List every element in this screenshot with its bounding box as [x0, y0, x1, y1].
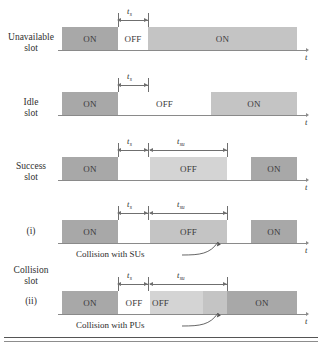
leader-line-collision-sus [180, 240, 230, 258]
time-axis-label-row1: t [305, 52, 307, 62]
dim-label-tsu-row5: tsu [177, 270, 184, 280]
segment-on-1: ON [62, 291, 118, 314]
dim-label-tsu-row3: tsu [177, 136, 184, 146]
time-axis-row3 [58, 180, 306, 181]
segment-on-1: ON [62, 220, 118, 243]
dim-line-tsu-row3 [150, 150, 227, 151]
segment-on-2: ON [148, 27, 297, 50]
row-label-collision-i: (i) [2, 226, 60, 237]
row-label-unavailable-slot: Unavailable slot [2, 32, 60, 53]
segment-on-2: ON [251, 157, 297, 180]
segment-gap-1 [118, 157, 150, 180]
segment-off-1: OFF [150, 157, 227, 180]
dim-label-ts-row3: ts [127, 136, 132, 146]
dim-line-tsu-row5 [150, 284, 227, 285]
segment-gap-1 [118, 220, 150, 243]
dim-label-ts-row4: ts [127, 199, 132, 209]
time-axis-row1 [58, 50, 306, 51]
dim-tick-start-ts-row5 [118, 277, 119, 291]
row-label-idle-slot: Idle slot [2, 97, 60, 118]
annotation-collision-with-pus: Collision with PUs [76, 320, 145, 330]
segment-gap-2 [227, 220, 251, 243]
dim-tick-end-ts-row2 [148, 78, 149, 92]
dim-label-tsu-row4: tsu [177, 199, 184, 209]
bottom-rule-2 [4, 341, 318, 342]
segment-off-1: OFF [118, 27, 148, 50]
dim-tick-start-ts-row4 [118, 206, 119, 220]
dim-tick-end-tsu-row4 [227, 206, 228, 220]
dim-tick-start-ts-row2 [118, 78, 119, 92]
group-label-collision-slot: Collision slot [2, 265, 60, 286]
time-axis-row2 [58, 115, 306, 116]
segment-on-2: ON [211, 92, 297, 115]
dim-tick-end-tsu-row5 [227, 277, 228, 291]
dim-label-ts-row1: ts [127, 6, 132, 16]
dim-label-ts-row2: ts [127, 71, 132, 81]
time-axis-label-row4: t [305, 245, 307, 255]
dim-line-tsu-row4 [150, 213, 227, 214]
segment-off-1: OFF [118, 92, 211, 115]
dim-arrow-left-tsu-row3 [149, 148, 153, 152]
row-label-success-slot: Success slot [2, 161, 60, 182]
time-axis-label-row3: t [305, 182, 307, 192]
dim-tick-start-ts-row3 [118, 143, 119, 157]
leader-line-collision-pus [180, 311, 230, 329]
dim-arrow-left-tsu-row4 [149, 211, 153, 215]
segment-on-1: ON [62, 157, 118, 180]
segment-on-2: ON [251, 220, 297, 243]
dim-label-ts-row5: ts [127, 270, 132, 280]
dim-arrow-left-tsu-row5 [149, 282, 153, 286]
segment-on-1: ON [62, 27, 118, 50]
segment-gap-2 [227, 157, 251, 180]
segment-on-2: ON [227, 291, 297, 314]
row-label-collision-ii: (ii) [2, 296, 60, 307]
dim-tick-end-tsu-row3 [227, 143, 228, 157]
dim-tick-end-ts-row1 [148, 13, 149, 28]
annotation-collision-with-sus: Collision with SUs [76, 249, 145, 259]
time-axis-label-row2: t [305, 117, 307, 127]
timing-diagram: Unavailable slot ts ON OFF ON t Idle slo… [0, 0, 322, 349]
segment-on-1: ON [62, 92, 118, 115]
bottom-rule-1 [4, 337, 318, 338]
time-axis-label-row5: t [305, 316, 307, 326]
